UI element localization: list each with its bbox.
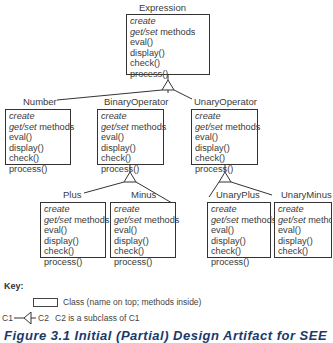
key-subclass-desc: C2 is a subclass of C1 [55,313,140,323]
figure-caption: Figure 3.1 Initial (Partial) Design Arti… [4,328,327,343]
method-get-set: get/set methods [44,215,102,226]
method-eval: eval() [195,132,254,143]
method-eval: eval() [130,37,206,48]
class-name-plus: Plus [63,189,81,200]
method-create: create [278,204,328,215]
method-eval: eval() [101,132,160,143]
method-eval: eval() [9,132,67,143]
method-get-set: get/set methods [130,27,206,38]
method-check: check() [130,58,206,69]
method-display: display() [130,48,206,59]
key-class-rect-icon [33,298,58,307]
key-title: Key: [4,281,24,291]
method-display: display() [195,143,254,154]
class-box-expression: create get/set methods eval() display() … [126,14,210,75]
method-create: create [195,111,254,122]
method-create: create [130,16,206,27]
method-get-set: get/set methods [101,122,160,133]
class-name-binary-operator: BinaryOperator [104,96,168,107]
method-check: check() [278,246,328,257]
method-create: create [114,204,172,215]
method-process: process() [130,69,206,80]
method-eval: eval() [211,225,267,236]
method-process: process() [195,164,254,175]
method-process: process() [278,257,328,258]
class-box-unary-minus: create get/set methods eval() display() … [274,202,332,258]
method-eval: eval() [114,225,172,236]
method-display: display() [44,236,102,247]
method-check: check() [44,246,102,257]
class-name-expression: Expression [139,2,186,13]
method-display: display() [211,236,267,247]
method-process: process() [114,257,172,268]
method-check: check() [114,246,172,257]
method-display: display() [101,143,160,154]
method-create: create [44,204,102,215]
key-subclass-triangle-icon [24,312,31,324]
method-get-set: get/set methods [114,215,172,226]
method-get-set: get/set methods [195,122,254,133]
class-name-minus: Minus [131,189,156,200]
method-get-set: get/set methods [9,122,67,133]
method-eval: eval() [278,225,328,236]
method-create: create [9,111,67,122]
class-box-number: create get/set methods eval() display() … [5,109,71,165]
key-class-desc: Class (name on top; methods inside) [63,297,201,307]
class-name-unary-minus: UnaryMinus [281,189,332,200]
class-name-unary-plus: UnaryPlus [216,189,260,200]
method-get-set: get/set methods [211,215,267,226]
key-c1-label: C1 [2,313,13,323]
key-c2-label: C2 [38,313,49,323]
class-name-unary-operator: UnaryOperator [194,96,257,107]
class-box-unary-operator: create get/set methods eval() display() … [191,109,258,165]
method-get-set: get/set methods [278,215,328,226]
method-process: process() [9,164,67,175]
method-check: check() [211,246,267,257]
method-check: check() [195,153,254,164]
class-box-minus: create get/set methods eval() display() … [110,202,176,258]
method-eval: eval() [44,225,102,236]
method-display: display() [114,236,172,247]
method-check: check() [101,153,160,164]
class-box-plus: create get/set methods eval() display() … [40,202,106,258]
class-box-unary-plus: create get/set methods eval() display() … [207,202,271,258]
method-process: process() [101,164,160,175]
method-display: display() [278,236,328,247]
method-check: check() [9,153,67,164]
method-process: process() [44,257,102,268]
method-create: create [211,204,267,215]
method-process: process() [211,257,267,268]
method-display: display() [9,143,67,154]
class-name-number: Number [23,96,57,107]
method-create: create [101,111,160,122]
class-box-binary-operator: create get/set methods eval() display() … [97,109,164,165]
inheritance-triangle-icon [162,80,174,90]
